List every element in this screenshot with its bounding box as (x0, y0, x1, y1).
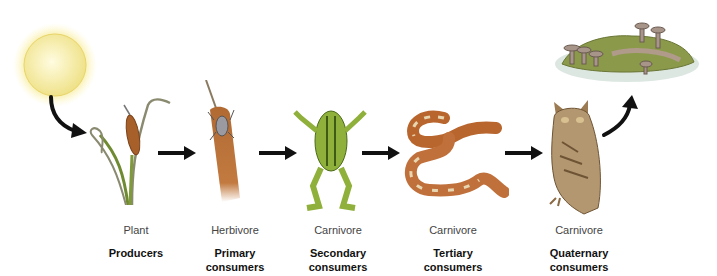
stage-level-label: Primary consumers (185, 246, 285, 274)
stage-level-label: Secondary consumers (288, 246, 388, 274)
stage-role-label: Carnivore (403, 224, 503, 236)
arrow-right-icon (362, 146, 400, 160)
stage-level-label: Tertiary consumers (403, 246, 503, 274)
stage-level-label: Producers (86, 246, 186, 260)
stage-level-line1: Primary (215, 247, 256, 259)
stage-level-line2: consumers (206, 261, 265, 273)
stage-role-label: Plant (86, 224, 186, 236)
decomposer-fungi-illustration (552, 14, 702, 86)
arrow-right-icon (505, 146, 543, 160)
stage-level-line2: consumers (424, 261, 483, 273)
stage-level-line2: consumers (309, 261, 368, 273)
stage-level-label: Quaternary consumers (529, 246, 629, 274)
stage-level-line1: Tertiary (433, 247, 473, 259)
stage-level-line2: consumers (550, 261, 609, 273)
stage-role-label: Carnivore (529, 224, 629, 236)
arrow-right-icon (259, 146, 297, 160)
stage-role-label: Carnivore (288, 224, 388, 236)
stage-level-line1: Secondary (310, 247, 366, 259)
stage-level-line1: Producers (109, 247, 163, 259)
stage-level-line1: Quaternary (550, 247, 609, 259)
grasshopper-illustration (200, 80, 250, 205)
curved-arrow-icon (45, 95, 90, 140)
stage-role-label: Herbivore (185, 224, 285, 236)
arrow-right-icon (158, 146, 196, 160)
curved-arrow-up-icon (600, 95, 640, 140)
snake-illustration (404, 108, 509, 200)
frog-illustration (293, 96, 368, 211)
owl-illustration (548, 98, 606, 216)
